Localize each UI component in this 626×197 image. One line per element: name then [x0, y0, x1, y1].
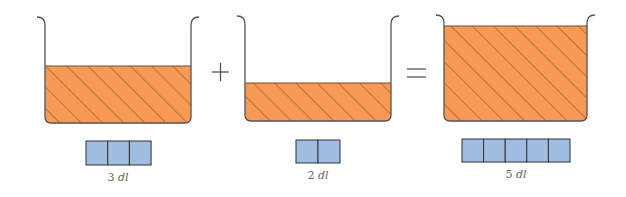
plus-sign — [212, 63, 229, 81]
container-3dl — [37, 17, 199, 123]
unit-blocks-5 — [462, 139, 570, 162]
label-3dl: 3 dl — [78, 171, 158, 184]
liquid-5dl — [444, 26, 587, 121]
liquid-3dl — [45, 66, 191, 123]
label-unit: dl — [318, 169, 329, 182]
container-2dl — [237, 16, 399, 121]
label-2dl: 2 dl — [278, 169, 358, 182]
label-5dl: 5 dl — [476, 168, 556, 181]
label-unit: dl — [516, 168, 527, 181]
unit-blocks-2 — [296, 140, 340, 163]
label-unit: dl — [118, 171, 129, 184]
unit-blocks-3 — [86, 141, 151, 165]
label-number: 3 — [107, 171, 114, 184]
label-number: 5 — [505, 168, 512, 181]
equals-sign — [407, 69, 426, 77]
label-number: 2 — [307, 169, 314, 182]
container-5dl — [436, 15, 595, 121]
liquid-2dl — [245, 83, 391, 121]
